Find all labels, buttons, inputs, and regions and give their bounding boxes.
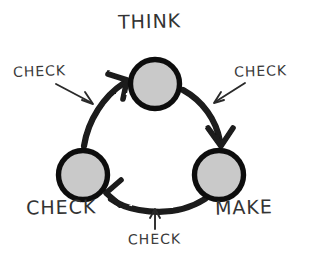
arc-make-to-check [111, 199, 205, 212]
node-label-make: MAKE [215, 195, 273, 219]
node-make[interactable] [195, 151, 244, 200]
annotation-arrow-top-right [215, 83, 245, 102]
diagram-canvas: THINK MAKE CHECK CHECK CHECK CHECK [0, 0, 310, 261]
node-label-check: CHECK [26, 195, 97, 218]
node-think[interactable] [131, 60, 180, 109]
annotation-label-check-top-left: CHECK [13, 62, 67, 80]
node-label-think: THINK [118, 9, 182, 32]
cycle-diagram [0, 0, 310, 261]
annotation-label-check-bottom: CHECK [128, 231, 181, 248]
node-check[interactable] [59, 151, 108, 200]
annotation-label-check-top-right: CHECK [234, 62, 288, 79]
node-check-circle [59, 151, 108, 200]
node-think-circle [131, 60, 180, 109]
arc-check-to-think [84, 83, 124, 146]
node-make-circle [195, 151, 244, 200]
